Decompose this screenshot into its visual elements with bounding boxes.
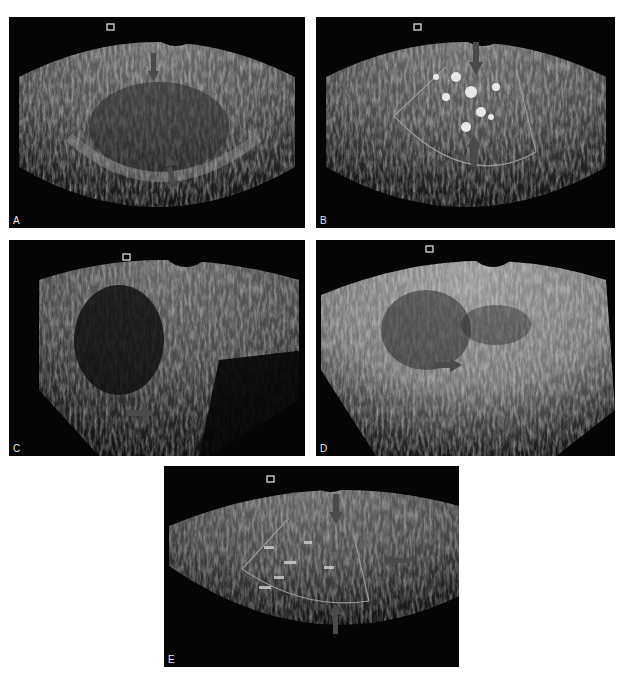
panel-label: C [13,444,20,454]
figure-panel-a: A [9,17,305,228]
panel-label: B [320,216,327,226]
ultrasound-image-e [164,466,459,667]
probe-footprint [147,17,205,46]
figure-panel-c: C [9,240,305,456]
ultrasound-image-a [9,17,305,228]
probe-orientation-marker-icon [107,24,114,30]
probe-orientation-marker-icon [414,24,421,30]
ultrasound-image-b [316,17,615,228]
probe-orientation-marker-icon [123,254,130,260]
probe-footprint [305,466,357,492]
figure-panel-b: B [316,17,615,228]
panel-label: A [13,216,20,226]
ultrasound-image-c [9,240,305,456]
probe-orientation-marker-icon [426,246,433,252]
panel-label: E [168,655,175,665]
probe-orientation-marker-icon [267,476,274,482]
ultrasound-image-d [316,240,615,456]
panel-label: D [320,444,327,454]
figure-panel-e: E [164,466,459,667]
figure-panel-d: D [316,240,615,456]
probe-footprint [454,17,512,46]
